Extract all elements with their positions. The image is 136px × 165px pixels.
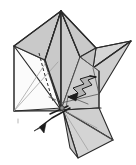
valley-arrow-head [34, 123, 46, 133]
hub-group [60, 106, 64, 110]
bottom-flap-group [63, 108, 113, 158]
hub-point [60, 106, 64, 110]
origami-illustration: Origami fold step diagram [0, 0, 136, 165]
origami-diagram: Origami fold step diagram [0, 0, 136, 165]
zigzag-arrow-tail [90, 76, 96, 77]
